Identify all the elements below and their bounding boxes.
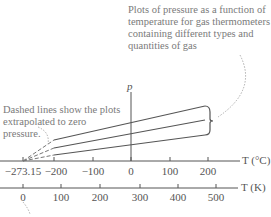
kelvin-tick: 500: [208, 191, 225, 203]
kelvin-tick: 400: [170, 191, 187, 203]
top-annotation-line-1: Plots of pressure as a function of: [128, 4, 266, 17]
top-annotation-line-3: containing different types and: [128, 28, 253, 41]
celsius-tick: −273.15: [5, 165, 41, 177]
celsius-tick: 200: [200, 165, 217, 177]
top-annotation-line-2: temperature for gas thermometers: [128, 16, 270, 29]
kelvin-tick: 100: [53, 191, 70, 203]
p-axis-label: p: [127, 80, 133, 92]
celsius-tick: 0: [128, 165, 134, 177]
left-annotation-line-2: extrapolated to zero: [3, 116, 86, 129]
celsius-tick: 100: [162, 165, 179, 177]
kelvin-tick: 300: [132, 191, 149, 203]
kelvin-axis-label: T (K): [241, 181, 266, 193]
kelvin-tick: 200: [92, 191, 109, 203]
left-annotation-line-1: Dashed lines show the plots: [3, 104, 120, 117]
left-annotation-line-3: pressure.: [3, 128, 41, 141]
celsius-tick: −200: [45, 165, 68, 177]
top-annotation-line-4: quantities of gas: [128, 40, 197, 53]
celsius-axis-label: T (°C): [242, 154, 270, 166]
celsius-tick: −100: [82, 165, 105, 177]
kelvin-tick: 0: [20, 191, 26, 203]
